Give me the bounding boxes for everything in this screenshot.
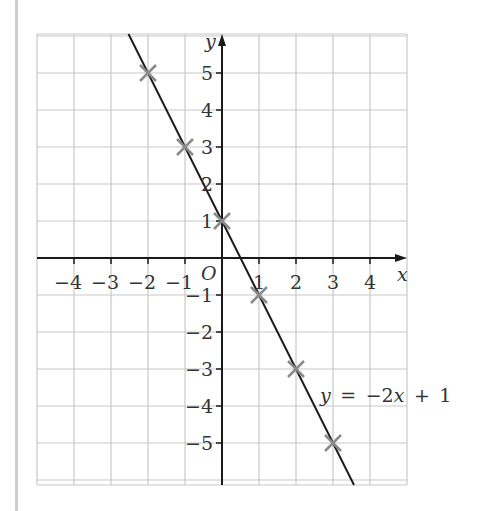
y-tick-label: 5 bbox=[201, 62, 213, 84]
x-tick-label: 2 bbox=[290, 271, 302, 293]
equation-label: y = −2x + 1 bbox=[319, 384, 451, 406]
x-tick-label: −2 bbox=[128, 271, 156, 293]
x-axis-label: x bbox=[397, 263, 408, 285]
y-tick-label: −3 bbox=[185, 358, 213, 380]
x-axis-arrow-icon bbox=[395, 254, 407, 262]
y-tick-label: 2 bbox=[201, 173, 213, 195]
x-tick-label: −4 bbox=[54, 271, 82, 293]
plot-line bbox=[129, 34, 355, 485]
x-tick-label: 4 bbox=[364, 271, 376, 293]
line-y-equals-minus-2x-plus-1 bbox=[129, 34, 355, 485]
y-tick-label: −4 bbox=[185, 395, 213, 417]
origin-label: O bbox=[201, 262, 217, 284]
x-tick-label: −3 bbox=[91, 271, 119, 293]
y-axis-label: y bbox=[204, 30, 216, 52]
y-tick-label: 1 bbox=[201, 210, 213, 232]
y-tick-label: −1 bbox=[185, 284, 213, 306]
x-tick-label: 1 bbox=[253, 271, 265, 293]
y-tick-label: −5 bbox=[185, 432, 213, 454]
linear-graph-chart: −4−3−2−1123454321−1−2−3−4−5xyO y = −2x +… bbox=[0, 0, 481, 511]
y-tick-label: 3 bbox=[201, 136, 213, 158]
axes bbox=[37, 34, 407, 485]
y-tick-label: −2 bbox=[185, 321, 213, 343]
x-tick-label: 3 bbox=[327, 271, 339, 293]
y-tick-label: 4 bbox=[201, 99, 213, 121]
